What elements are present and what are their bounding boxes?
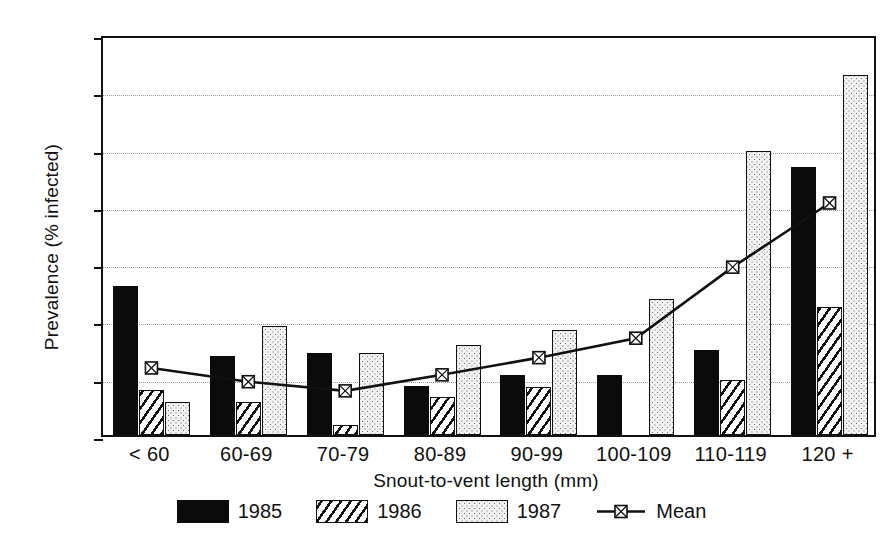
x-axis-tick-label: < 60 (101, 443, 198, 466)
legend-label: 1987 (517, 500, 562, 523)
chart-figure: Prevalence (% infected) Mean < 60: 6.2Me… (0, 0, 883, 552)
x-axis-title: Snout-to-vent length (mm) (96, 470, 876, 492)
y-axis-tick (94, 38, 103, 40)
mean-marker[interactable]: Mean < 60: 6.2 (145, 362, 157, 374)
plot-area: Mean < 60: 6.2Mean 60-69: 5Mean 70-79: 4… (101, 36, 876, 437)
y-axis-tick (94, 267, 103, 269)
mean-marker[interactable]: Mean 60-69: 5 (242, 376, 254, 388)
mean-marker[interactable]: Mean 70-79: 4.2 (339, 385, 351, 397)
legend-swatch-1985 (177, 500, 229, 523)
x-axis-tick-label: 120 + (779, 443, 876, 466)
mean-line (151, 203, 829, 391)
mean-marker[interactable]: Mean 80-89: 5.6 (436, 369, 448, 381)
legend-swatch-1987 (456, 500, 508, 523)
mean-marker[interactable]: Mean 110-119: 15 (727, 261, 739, 273)
legend-mean-marker-icon (595, 500, 647, 523)
legend-item-1986[interactable]: 1986 (316, 500, 422, 523)
legend-label: 1986 (377, 500, 422, 523)
x-axis-tick-label: 110-119 (682, 443, 779, 466)
y-axis-tick (94, 439, 103, 441)
y-axis-title: Prevalence (% infected) (41, 47, 63, 447)
legend-swatch-1986 (316, 500, 368, 523)
y-axis-tick (94, 210, 103, 212)
y-axis-tick (94, 324, 103, 326)
x-axis-tick-label: 80-89 (392, 443, 489, 466)
chart-legend: 198519861987Mean (0, 500, 883, 523)
mean-series-layer: Mean < 60: 6.2Mean 60-69: 5Mean 70-79: 4… (103, 38, 878, 439)
x-axis-tick-label: 70-79 (295, 443, 392, 466)
legend-item-1985[interactable]: 1985 (177, 500, 283, 523)
x-axis-tick-label: 100-109 (585, 443, 682, 466)
legend-item-mean[interactable]: Mean (595, 500, 706, 523)
mean-marker[interactable]: Mean 90-99: 7.1 (533, 352, 545, 364)
y-axis-tick (94, 95, 103, 97)
legend-label: Mean (656, 500, 706, 523)
mean-marker[interactable]: Mean 100-109: 8.8 (630, 332, 642, 344)
x-axis-tick-label: 60-69 (198, 443, 295, 466)
mean-marker[interactable]: Mean 120 +: 20.6 (824, 197, 836, 209)
x-axis-tick-label: 90-99 (489, 443, 586, 466)
y-axis-tick (94, 382, 103, 384)
legend-label: 1985 (238, 500, 283, 523)
y-axis-tick (94, 153, 103, 155)
legend-item-1987[interactable]: 1987 (456, 500, 562, 523)
